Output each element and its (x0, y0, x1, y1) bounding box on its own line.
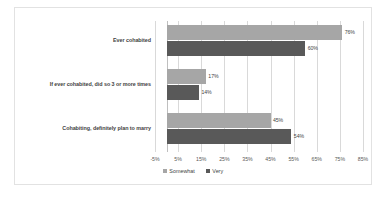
bar-group: Ever cohabited76%60% (155, 25, 363, 59)
x-axis-tick-labels: -5%5%15%25%35%45%55%65%75%85% (155, 156, 363, 166)
chart-container: Ever cohabited76%60%If ever cohabited, d… (14, 7, 372, 185)
x-tick-label: 55% (288, 156, 298, 162)
bar-somewhat[interactable] (167, 25, 343, 40)
gridline-85 (363, 21, 364, 152)
x-tick-label: 85% (358, 156, 368, 162)
category-label: Cohabiting, definitely plan to marry (19, 113, 151, 144)
x-tick-label: 5% (174, 156, 182, 162)
bar-very[interactable] (167, 129, 292, 144)
legend-swatch-icon (163, 169, 167, 173)
bar-very[interactable] (167, 41, 306, 56)
bar-somewhat[interactable] (167, 69, 206, 84)
bar-group: If ever cohabited, did so 3 or more time… (155, 69, 363, 103)
bar-somewhat[interactable] (167, 113, 271, 128)
bar-value-label: 76% (345, 25, 355, 40)
bar-value-label: 54% (294, 129, 304, 144)
x-tick-label: 45% (265, 156, 275, 162)
legend-item[interactable]: Very (206, 168, 223, 174)
bar-value-label: 45% (273, 113, 283, 128)
bar-value-label: 17% (208, 69, 218, 84)
bar-value-label: 60% (308, 41, 318, 56)
legend-label: Very (212, 168, 223, 174)
legend-swatch-icon (206, 169, 210, 173)
x-tick-label: 25% (219, 156, 229, 162)
legend-item[interactable]: Somewhat (163, 168, 195, 174)
plot-area: Ever cohabited76%60%If ever cohabited, d… (155, 21, 363, 152)
x-tick-label: 35% (242, 156, 252, 162)
category-label: Ever cohabited (19, 25, 151, 56)
bar-group: Cohabiting, definitely plan to marry45%5… (155, 113, 363, 147)
bar-very[interactable] (167, 85, 199, 100)
x-tick-label: -5% (150, 156, 159, 162)
x-tick-label: 75% (335, 156, 345, 162)
chart-legend: SomewhatVery (15, 168, 371, 174)
category-label: If ever cohabited, did so 3 or more time… (19, 69, 151, 100)
bar-value-label: 14% (201, 85, 211, 100)
legend-label: Somewhat (169, 168, 194, 174)
x-tick-label: 65% (312, 156, 322, 162)
x-tick-label: 15% (196, 156, 206, 162)
